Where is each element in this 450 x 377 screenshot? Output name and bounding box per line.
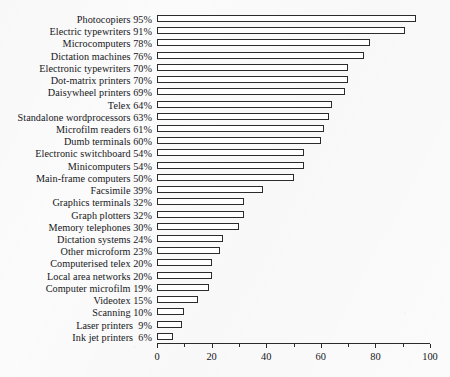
- bar-row-label: Microfilm readers 61%: [56, 123, 152, 136]
- bar-row-label: Electric typewriters 91%: [50, 25, 152, 38]
- x-axis-tick-major: [321, 344, 322, 348]
- bar-row: Graphics terminals 32%: [0, 196, 450, 209]
- bar-row-label: Electronic switchboard 54%: [35, 147, 152, 160]
- bar: [157, 284, 209, 291]
- bar-row-label: Videotex 15%: [93, 294, 152, 307]
- x-axis-tick-label: 80: [370, 351, 380, 362]
- bar-row: Dot-matrix printers 70%: [0, 74, 450, 87]
- bar: [157, 223, 239, 230]
- bar-row: Dumb terminals 60%: [0, 135, 450, 148]
- bar-row-label: Scanning 10%: [92, 306, 152, 319]
- bar: [157, 235, 223, 242]
- bar: [157, 88, 345, 95]
- bar-row-label: Ink jet printers 6%: [72, 331, 152, 344]
- bar-row: Telex 64%: [0, 99, 450, 112]
- bar-row-label: Dictation machines 76%: [51, 50, 152, 63]
- bar-row: Electric typewriters 91%: [0, 25, 450, 38]
- bar-row: Graph plotters 32%: [0, 209, 450, 222]
- chart-page: Photocopiers 95%Electric typewriters 91%…: [0, 0, 450, 377]
- x-axis-tick-label: 0: [154, 351, 159, 362]
- bar-row: Electronic typewriters 70%: [0, 62, 450, 75]
- bar-row: Microcomputers 78%: [0, 37, 450, 50]
- bar: [157, 39, 370, 46]
- bar: [157, 162, 304, 169]
- bar-row: Laser printers 9%: [0, 319, 450, 332]
- x-axis-tick-major: [212, 344, 213, 348]
- bar-row: Scanning 10%: [0, 306, 450, 319]
- bar-row-label: Other microform 23%: [61, 245, 152, 258]
- bar-row: Microfilm readers 61%: [0, 123, 450, 136]
- bar-row: Computer microfilm 19%: [0, 282, 450, 295]
- x-axis-tick-major: [375, 344, 376, 348]
- bar: [157, 64, 348, 71]
- bar: [157, 15, 416, 22]
- bar-row-label: Dot-matrix printers 70%: [51, 74, 152, 87]
- bar-row-label: Graph plotters 32%: [71, 209, 152, 222]
- bar: [157, 247, 220, 254]
- bar-row: Facsimile 39%: [0, 184, 450, 197]
- bar-row-label: Computer microfilm 19%: [46, 282, 152, 295]
- bar-row-label: Local area networks 20%: [47, 270, 152, 283]
- horizontal-bar-chart: Photocopiers 95%Electric typewriters 91%…: [0, 0, 450, 377]
- x-axis-tick-minor: [184, 344, 185, 347]
- bar: [157, 272, 212, 279]
- bar-row: Daisywheel printers 69%: [0, 86, 450, 99]
- bar: [157, 333, 173, 340]
- bar-row-label: Telex 64%: [108, 99, 152, 112]
- x-axis-tick-minor: [403, 344, 404, 347]
- bar: [157, 259, 212, 266]
- bar: [157, 76, 348, 83]
- bar-row: Electronic switchboard 54%: [0, 147, 450, 160]
- x-axis-tick-label: 20: [206, 351, 216, 362]
- x-axis-tick-major: [266, 344, 267, 348]
- x-axis-tick-major: [157, 344, 158, 348]
- bar: [157, 174, 294, 181]
- bar-row: Dictation systems 24%: [0, 233, 450, 246]
- bar-row-label: Graphics terminals 32%: [52, 196, 152, 209]
- bar-row-label: Facsimile 39%: [91, 184, 152, 197]
- bar: [157, 211, 244, 218]
- bar: [157, 308, 184, 315]
- bar-row-label: Electronic typewriters 70%: [39, 62, 152, 75]
- bar-row: Main-frame computers 50%: [0, 172, 450, 185]
- bar-row: Minicomputers 54%: [0, 160, 450, 173]
- bar-row-label: Computerised telex 20%: [50, 257, 152, 270]
- bar-row-label: Laser printers 9%: [76, 319, 152, 332]
- bar: [157, 321, 182, 328]
- bar: [157, 149, 304, 156]
- bar-row-label: Photocopiers 95%: [77, 13, 152, 26]
- bar-row: Standalone wordprocessors 63%: [0, 111, 450, 124]
- bar-row: Photocopiers 95%: [0, 13, 450, 26]
- bar-row-label: Dumb terminals 60%: [64, 135, 152, 148]
- x-axis-tick-minor: [294, 344, 295, 347]
- bar: [157, 198, 244, 205]
- bar: [157, 137, 321, 144]
- bar-row: Memory telephones 30%: [0, 221, 450, 234]
- bar-row: Computerised telex 20%: [0, 257, 450, 270]
- bar: [157, 186, 263, 193]
- bar: [157, 101, 332, 108]
- x-axis-tick-label: 100: [422, 351, 438, 362]
- bar-row: Dictation machines 76%: [0, 50, 450, 63]
- bar-row-label: Minicomputers 54%: [68, 160, 152, 173]
- bar: [157, 27, 405, 34]
- bar-row: Other microform 23%: [0, 245, 450, 258]
- bar: [157, 113, 329, 120]
- bar-row-label: Main-frame computers 50%: [36, 172, 152, 185]
- bar-row-label: Standalone wordprocessors 63%: [18, 111, 152, 124]
- bar: [157, 296, 198, 303]
- bar: [157, 125, 324, 132]
- bar-row-label: Memory telephones 30%: [49, 221, 152, 234]
- x-axis-tick-label: 60: [316, 351, 326, 362]
- bar-row: Videotex 15%: [0, 294, 450, 307]
- bar-row-label: Microcomputers 78%: [63, 37, 152, 50]
- bar-row-label: Daisywheel printers 69%: [48, 86, 152, 99]
- bar-row: Local area networks 20%: [0, 270, 450, 283]
- x-axis-tick-label: 40: [261, 351, 271, 362]
- x-axis-tick-major: [430, 344, 431, 348]
- bar: [157, 52, 364, 59]
- x-axis-tick-minor: [348, 344, 349, 347]
- bar-row-label: Dictation systems 24%: [57, 233, 152, 246]
- x-axis-tick-minor: [239, 344, 240, 347]
- bar-row: Ink jet printers 6%: [0, 331, 450, 344]
